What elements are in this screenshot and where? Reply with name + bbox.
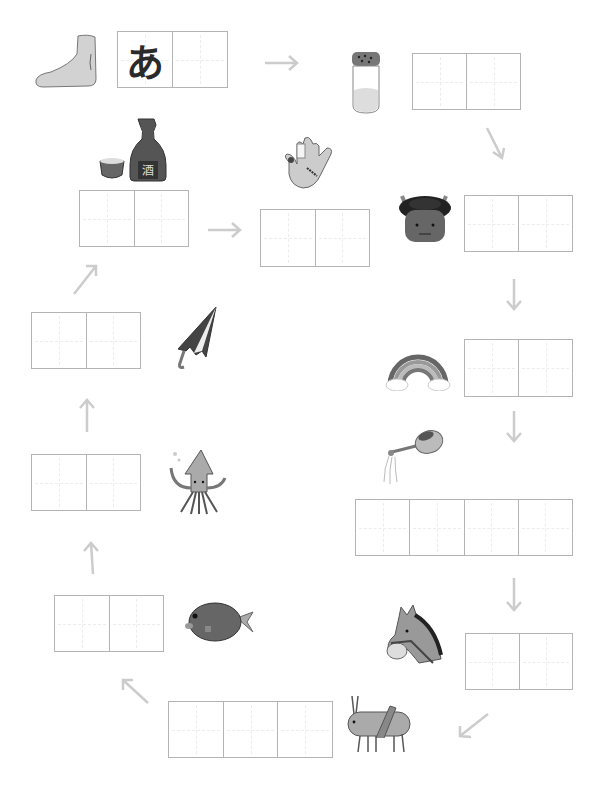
answer-cell[interactable]: [110, 596, 164, 651]
salt-shaker-icon: [349, 50, 383, 120]
given-kana: あ: [126, 32, 164, 87]
answer-box-niji: [464, 339, 573, 397]
answer-cell[interactable]: [316, 210, 370, 266]
svg-text:酒: 酒: [142, 164, 154, 178]
answer-box-tai: [54, 595, 164, 652]
answer-box-shio: [412, 53, 521, 110]
answer-cell[interactable]: [356, 500, 410, 555]
answer-cell[interactable]: [466, 634, 520, 689]
answer-cell[interactable]: [465, 196, 519, 251]
grasshopper-icon: [346, 694, 414, 760]
answer-box-sake: [79, 190, 189, 247]
answer-cell[interactable]: [519, 500, 572, 555]
answer-box-kasa: [31, 312, 141, 369]
hand-icon: [279, 134, 337, 196]
answer-box-batta: [168, 701, 333, 758]
answer-cell[interactable]: [32, 313, 87, 368]
answer-cell[interactable]: [224, 702, 279, 757]
answer-cell[interactable]: [520, 634, 573, 689]
answer-cell[interactable]: [80, 191, 135, 246]
answer-box-te: [260, 209, 370, 267]
squid-icon: [163, 448, 229, 520]
answer-box-ika: [31, 454, 141, 511]
arrow-down-right-icon: [484, 126, 508, 162]
arrow-down-left-icon: [456, 712, 490, 740]
arrow-up-icon: [83, 541, 101, 575]
arrow-right-icon: [207, 221, 243, 239]
answer-cell[interactable]: [467, 54, 520, 109]
answer-cell[interactable]: [413, 54, 467, 109]
answer-cell[interactable]: [465, 500, 519, 555]
answer-cell[interactable]: [169, 702, 224, 757]
answer-cell[interactable]: [519, 340, 572, 396]
sea-bream-fish-icon: [183, 596, 255, 648]
answer-cell[interactable]: あ: [118, 32, 173, 87]
answer-cell[interactable]: [278, 702, 332, 757]
oni-demon-icon: [396, 192, 454, 252]
arrow-down-icon: [505, 410, 523, 444]
answer-cell[interactable]: [87, 455, 141, 510]
rainbow-icon: [385, 341, 451, 395]
answer-box-oni: [464, 195, 573, 252]
umbrella-icon: [172, 305, 220, 375]
answer-box-ashi: あ: [117, 31, 228, 88]
arrow-down-icon: [505, 577, 523, 613]
answer-box-jouro: [355, 499, 573, 556]
arrow-up-left-icon: [120, 677, 150, 705]
answer-cell[interactable]: [465, 340, 519, 396]
arrow-down-icon: [505, 278, 523, 312]
arrow-up-right-icon: [72, 262, 100, 296]
answer-box-uma: [465, 633, 573, 690]
answer-cell[interactable]: [519, 196, 572, 251]
answer-cell[interactable]: [55, 596, 110, 651]
answer-cell[interactable]: [173, 32, 227, 87]
answer-cell[interactable]: [87, 313, 141, 368]
foot-icon: [33, 34, 103, 93]
answer-cell[interactable]: [261, 210, 316, 266]
answer-cell[interactable]: [410, 500, 464, 555]
horse-icon: [385, 605, 451, 675]
arrow-right-icon: [264, 54, 300, 72]
answer-cell[interactable]: [135, 191, 189, 246]
watering-can-icon: [380, 424, 450, 494]
answer-cell[interactable]: [32, 455, 87, 510]
arrow-up-icon: [78, 398, 96, 434]
sake-bottle-icon: 酒: [98, 117, 168, 187]
